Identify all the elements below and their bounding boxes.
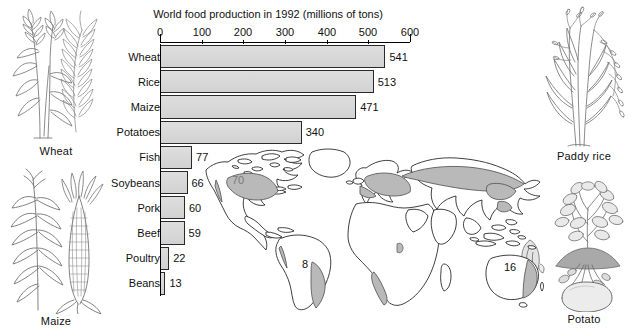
bar-row: Wheat541 [108,44,428,69]
bar-value-label: 22 [173,252,185,264]
illustration-paddy-rice: Paddy rice [532,4,636,162]
map-label-australia: 16 [504,261,516,273]
bar-category-label: Beef [137,227,160,239]
bar-category-label: Potatoes [117,126,160,138]
y-axis-baseline [160,44,161,296]
illustration-potato: Potato [532,180,636,325]
bar [160,171,188,194]
bar [160,45,385,68]
bar [160,196,185,219]
bar-row: Rice513 [108,69,428,94]
bar-row: Potatoes340 [108,120,428,145]
world-map-drawing [198,142,544,312]
x-tick-200: 200 [234,26,252,38]
chart-title: World food production in 1992 (millions … [108,8,428,20]
bar-category-label: Beans [129,277,160,289]
x-axis-tick-labels: 0 100 200 300 400 500 600 [108,26,428,40]
x-axis-start-cap [160,34,161,42]
bar-category-label: Soybeans [111,177,160,189]
x-tick-500: 500 [359,26,377,38]
illustration-caption-wheat: Wheat [4,145,108,157]
bar-category-label: Wheat [128,51,160,63]
bar [160,221,185,244]
bar-category-label: Pork [137,202,160,214]
bar-category-label: Maize [131,101,160,113]
bar-value-label: 340 [306,126,324,138]
illustration-caption-maize: Maize [4,315,108,327]
x-tick-300: 300 [276,26,294,38]
world-map: 70 8 16 [198,142,544,312]
x-tick-400: 400 [318,26,336,38]
bar-value-label: 13 [169,277,181,289]
bar-category-label: Fish [139,151,160,163]
illustration-wheat: Wheat [4,4,108,157]
map-label-north-america: 70 [232,174,244,186]
bar-row: Maize471 [108,94,428,119]
figure-root: Wheat [0,0,639,336]
bar-value-label: 541 [389,51,407,63]
bar [160,95,356,118]
maize-drawing [4,168,108,314]
bar [160,70,374,93]
paddy-rice-drawing [532,4,636,149]
illustration-caption-potato: Potato [532,313,636,325]
wheat-drawing [4,4,108,144]
potato-drawing [532,180,636,312]
x-axis-end-cap [410,34,411,42]
bar [160,121,302,144]
bar-value-label: 471 [360,101,378,113]
bar-category-label: Rice [138,76,160,88]
bar-value-label: 513 [378,76,396,88]
illustration-maize: Maize [4,168,108,327]
bar [160,146,192,169]
x-tick-100: 100 [193,26,211,38]
map-label-south-america: 8 [302,258,308,270]
illustration-caption-paddy-rice: Paddy rice [532,150,636,162]
bar-category-label: Poultry [126,252,160,264]
bar [160,247,169,270]
